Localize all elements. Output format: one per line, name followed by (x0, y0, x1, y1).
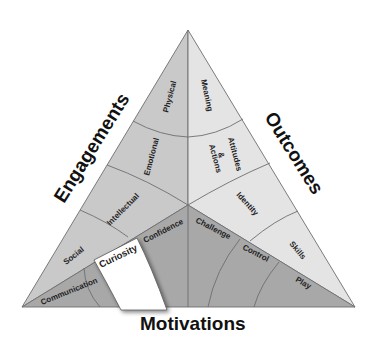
motivations-axis-label: Motivations (140, 313, 246, 334)
triangle-diagram: Engagements Outcomes Motivations Physica… (0, 0, 377, 347)
